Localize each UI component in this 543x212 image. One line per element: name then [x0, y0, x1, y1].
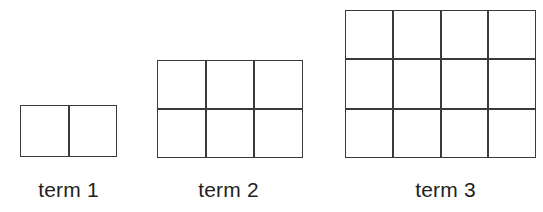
- figure-term-1: [20, 105, 117, 157]
- figure-canvas: term 1 term 2 term 3: [0, 0, 543, 212]
- figure-term-2: [157, 60, 303, 158]
- unit-square: [442, 110, 488, 157]
- unit-square: [158, 110, 205, 157]
- unit-square: [394, 110, 440, 157]
- unit-square: [489, 110, 535, 157]
- unit-square: [346, 11, 392, 58]
- unit-square: [346, 60, 392, 107]
- figure-term-3: [345, 10, 536, 158]
- term-label-2: term 2: [160, 176, 297, 204]
- term-label-3: term 3: [377, 176, 514, 204]
- term-label-1: term 1: [0, 176, 137, 204]
- unit-square: [207, 110, 254, 157]
- unit-square: [442, 60, 488, 107]
- unit-square: [255, 110, 302, 157]
- unit-square: [346, 110, 392, 157]
- unit-square: [489, 11, 535, 58]
- unit-square: [255, 61, 302, 108]
- unit-square: [442, 11, 488, 58]
- unit-square: [70, 106, 117, 156]
- unit-square: [394, 60, 440, 107]
- unit-square: [207, 61, 254, 108]
- unit-square: [489, 60, 535, 107]
- unit-square: [21, 106, 68, 156]
- unit-square: [394, 11, 440, 58]
- unit-square: [158, 61, 205, 108]
